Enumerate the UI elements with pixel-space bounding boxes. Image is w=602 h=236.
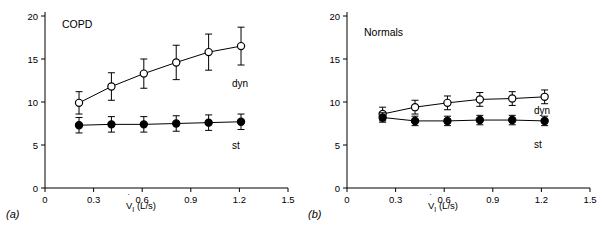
panel-a-marker-dyn bbox=[75, 99, 82, 106]
panel-b-ytick-label: 10 bbox=[329, 97, 340, 108]
panel-a-ytick-label: 10 bbox=[27, 97, 38, 108]
panel-b-xtick-label: 1.2 bbox=[535, 194, 548, 205]
panel-b-marker-st bbox=[411, 117, 418, 124]
panel-a-marker-st bbox=[140, 121, 147, 128]
panel-a-marker-dyn bbox=[205, 49, 212, 56]
panel-a-marker-st bbox=[205, 119, 212, 126]
panel-a-series-st bbox=[75, 114, 244, 133]
panel-a-st-label: st bbox=[232, 140, 240, 151]
panel-b-marker-dyn bbox=[411, 104, 418, 111]
panel-b-xtick-label: 0.9 bbox=[486, 194, 499, 205]
panel-a-dyn-label: dyn bbox=[232, 78, 248, 89]
panel-b-st-label: st bbox=[534, 139, 542, 150]
panel-b-marker-st bbox=[541, 117, 548, 124]
panel-a-marker-st bbox=[75, 122, 82, 129]
panel-a-marker-st bbox=[173, 120, 180, 127]
panel-b-marker-dyn bbox=[541, 93, 548, 100]
panel-b-marker-dyn bbox=[476, 96, 483, 103]
panel-a-ytick-label: 5 bbox=[33, 140, 38, 151]
panel-a-line bbox=[79, 122, 241, 125]
panel-b-marker-st bbox=[379, 114, 386, 121]
panel-b-xtick-label: 0 bbox=[344, 194, 349, 205]
chart-panel-b: 0510152000.30.60.91.21.5 Normals dyn st … bbox=[302, 0, 602, 236]
panel-b-axes bbox=[347, 12, 590, 188]
panel-a-xtick-label: 0 bbox=[42, 194, 47, 205]
panel-b-xtick-label: 1.5 bbox=[583, 194, 596, 205]
panel-a-xtick-label: 0.9 bbox=[184, 194, 197, 205]
panel-a-marker-st bbox=[108, 121, 115, 128]
panel-b-ytick-label: 5 bbox=[335, 140, 340, 151]
panel-b-series-st bbox=[379, 113, 548, 126]
chart-panel-a: 0510152000.30.60.91.21.5 COPD dyn st ̇VI… bbox=[0, 0, 300, 236]
panel-b-marker-st bbox=[444, 117, 451, 124]
panel-a-marker-dyn bbox=[173, 59, 180, 66]
panel-b-ytick-label: 0 bbox=[335, 183, 340, 194]
panel-a-xlabel: ̇VI (L/s) bbox=[126, 200, 156, 213]
panel-b-marker-st bbox=[509, 116, 516, 123]
figure-container: 0510152000.30.60.91.21.5 COPD dyn st ̇VI… bbox=[0, 0, 602, 236]
panel-b-ytick-label: 20 bbox=[329, 11, 340, 22]
panel-a-ytick-label: 15 bbox=[27, 54, 38, 65]
panel-b-line bbox=[383, 117, 545, 120]
panel-a-tag: (a) bbox=[6, 208, 19, 220]
panel-a-series-dyn bbox=[75, 27, 244, 114]
panel-a-xtick-label: 1.2 bbox=[233, 194, 246, 205]
panel-b-tag: (b) bbox=[308, 208, 321, 220]
panel-a-line bbox=[79, 46, 241, 103]
panel-b-ytick-label: 15 bbox=[329, 54, 340, 65]
panel-b-title: Normals bbox=[364, 26, 403, 38]
panel-a-marker-st bbox=[237, 118, 244, 125]
panel-b-line bbox=[383, 97, 545, 114]
panel-b-marker-dyn bbox=[509, 95, 516, 102]
panel-b-xtick-label: 0.3 bbox=[389, 194, 402, 205]
panel-a-marker-dyn bbox=[237, 43, 244, 50]
panel-a-xtick-label: 1.5 bbox=[281, 194, 294, 205]
panel-b-marker-dyn bbox=[444, 99, 451, 106]
panel-b-marker-st bbox=[476, 116, 483, 123]
panel-a-marker-dyn bbox=[108, 83, 115, 90]
panel-b-series-dyn bbox=[379, 90, 548, 121]
panel-a-title: COPD bbox=[62, 18, 92, 30]
panel-a-ytick-label: 0 bbox=[33, 183, 38, 194]
panel-b-xlabel: ̇VI (L/s) bbox=[428, 200, 458, 213]
panel-a-marker-dyn bbox=[140, 70, 147, 77]
panel-a-xtick-label: 0.3 bbox=[87, 194, 100, 205]
panel-b-dyn-label: dyn bbox=[534, 105, 550, 116]
panel-a-ytick-label: 20 bbox=[27, 11, 38, 22]
